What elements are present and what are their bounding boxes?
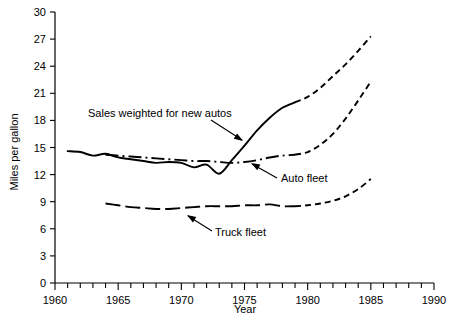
y-tick-label: 21 — [34, 87, 46, 99]
annotation-label: Auto fleet — [281, 172, 327, 184]
x-tick-label: 1990 — [422, 294, 446, 306]
y-tick-label: 0 — [40, 277, 46, 289]
y-tick-label: 30 — [34, 6, 46, 18]
x-axis-title: Year — [234, 303, 257, 315]
annotation-label: Sales weighted for new autos — [88, 107, 232, 119]
chart-background — [0, 0, 459, 323]
y-axis-title: Miles per gallon — [8, 113, 20, 190]
x-tick-label: 1965 — [106, 294, 130, 306]
y-tick-label: 3 — [40, 250, 46, 262]
y-tick-label: 24 — [34, 60, 46, 72]
mileage-line-chart: 036912151821242730 196019651970197519801… — [0, 0, 459, 323]
y-tick-label: 9 — [40, 196, 46, 208]
y-tick-label: 18 — [34, 114, 46, 126]
annotation-label: Truck fleet — [215, 226, 266, 238]
x-tick-label: 1985 — [359, 294, 383, 306]
y-tick-label: 27 — [34, 33, 46, 45]
x-tick-label: 1970 — [169, 294, 193, 306]
x-tick-label: 1960 — [43, 294, 67, 306]
x-tick-label: 1980 — [295, 294, 319, 306]
chart-container: 036912151821242730 196019651970197519801… — [0, 0, 459, 323]
y-tick-label: 12 — [34, 169, 46, 181]
y-tick-label: 6 — [40, 223, 46, 235]
y-tick-label: 15 — [34, 142, 46, 154]
